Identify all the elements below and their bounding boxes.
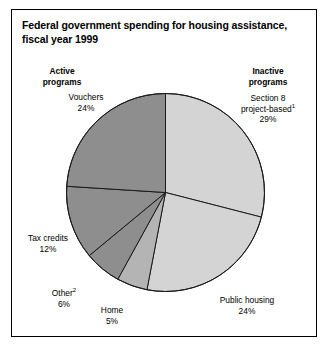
slice-label-section8-value: 29% [228, 114, 308, 125]
group-label-active: Active programs [23, 66, 101, 87]
group-label-inactive: Inactive programs [228, 66, 308, 87]
slice-label-section8-line2: project-based1 [228, 104, 308, 115]
slice-label-vouchers-name: Vouchers [52, 92, 120, 103]
slice-label-other-text: Other [52, 288, 73, 298]
slice-label-tax-credits-name: Tax credits [12, 233, 84, 244]
slice-label-other-name: Other2 [38, 288, 90, 299]
slice-label-home: Home 5% [86, 305, 138, 326]
slice-label-home-value: 5% [86, 316, 138, 327]
figure-container: Federal government spending for housing … [0, 0, 328, 345]
group-label-active-line2: programs [23, 77, 101, 88]
slice-label-other: Other2 6% [38, 288, 90, 309]
slice-label-vouchers-value: 24% [52, 103, 120, 114]
group-label-active-line1: Active [23, 66, 101, 77]
group-label-inactive-line1: Inactive [228, 66, 308, 77]
slice-label-section8-line1: Section 8 [228, 93, 308, 104]
slice-label-vouchers: Vouchers 24% [52, 92, 120, 113]
slice-label-public-housing-name: Public housing [207, 295, 287, 306]
slice-label-home-name: Home [86, 305, 138, 316]
group-label-inactive-line2: programs [228, 77, 308, 88]
footnote-marker-section8: 1 [292, 103, 295, 109]
slice-label-other-value: 6% [38, 299, 90, 310]
slice-label-tax-credits-value: 12% [12, 244, 84, 255]
slice-label-section8-line2-text: project-based [241, 104, 292, 114]
slice-label-section8: Section 8 project-based1 29% [228, 93, 308, 125]
slice-label-tax-credits: Tax credits 12% [12, 233, 84, 254]
slice-label-public-housing-value: 24% [207, 306, 287, 317]
footnote-marker-other: 2 [73, 287, 76, 293]
slice-label-public-housing: Public housing 24% [207, 295, 287, 316]
